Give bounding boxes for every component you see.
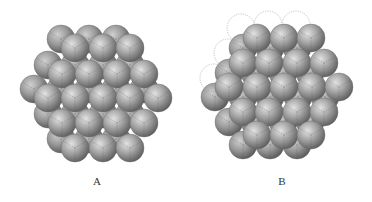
front-sphere bbox=[130, 109, 158, 137]
front-sphere bbox=[75, 109, 103, 137]
front-sphere bbox=[116, 34, 144, 62]
front-sphere bbox=[48, 60, 76, 88]
front-sphere bbox=[270, 121, 298, 149]
front-sphere bbox=[215, 73, 243, 101]
front-sphere bbox=[325, 73, 353, 101]
sphere-packing-figure: A B bbox=[0, 0, 372, 202]
front-sphere bbox=[298, 73, 326, 101]
front-sphere bbox=[89, 134, 117, 162]
front-sphere bbox=[297, 121, 325, 149]
front-sphere bbox=[243, 73, 271, 101]
panel-b: B bbox=[200, 11, 353, 187]
front-sphere bbox=[255, 49, 283, 77]
panel-label-b: B bbox=[278, 175, 285, 187]
front-sphere bbox=[283, 49, 311, 77]
front-sphere bbox=[61, 134, 89, 162]
front-sphere bbox=[130, 60, 158, 88]
front-sphere bbox=[116, 134, 144, 162]
front-sphere bbox=[144, 84, 172, 112]
front-sphere bbox=[297, 24, 325, 52]
front-sphere bbox=[116, 84, 144, 112]
front-sphere bbox=[310, 49, 338, 77]
front-sphere bbox=[89, 34, 117, 62]
panel-label-a: A bbox=[93, 175, 101, 187]
front-sphere bbox=[270, 73, 298, 101]
front-sphere bbox=[34, 84, 62, 112]
front-sphere bbox=[61, 34, 89, 62]
front-sphere bbox=[243, 24, 271, 52]
front-sphere bbox=[75, 60, 103, 88]
front-sphere bbox=[270, 24, 298, 52]
front-sphere bbox=[48, 109, 76, 137]
front-sphere bbox=[243, 121, 271, 149]
front-sphere bbox=[103, 60, 131, 88]
front-sphere bbox=[89, 84, 117, 112]
front-sphere bbox=[61, 84, 89, 112]
front-sphere bbox=[103, 109, 131, 137]
front-sphere bbox=[229, 49, 257, 77]
panel-a: A bbox=[20, 25, 172, 187]
